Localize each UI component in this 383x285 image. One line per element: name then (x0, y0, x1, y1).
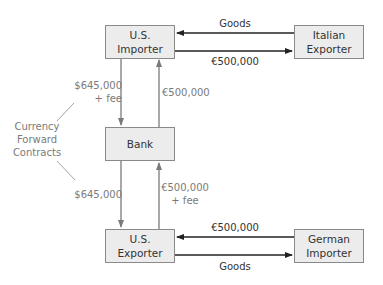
node-italian-exporter: Italian Exporter (294, 25, 364, 59)
callout-line-top (57, 103, 74, 121)
annotation-currency-forward-contracts: Currency Forward Contracts (4, 120, 70, 159)
label-bank-to-exporter: $645,000 (64, 188, 122, 201)
label-importer-to-bank: $645,000 + fee (64, 79, 122, 105)
label-bottom-payment: €500,000 (200, 221, 270, 234)
callout-line-bottom (57, 161, 75, 180)
label-exporter-to-bank: €500,000 + fee (160, 181, 210, 207)
label-top-goods: Goods (205, 17, 265, 30)
label-bank-to-importer: €500,000 (162, 86, 222, 99)
node-us-exporter: U.S. Exporter (105, 229, 175, 263)
label-top-payment: €500,000 (200, 55, 270, 68)
node-german-importer: German Importer (294, 229, 364, 263)
node-us-importer: U.S. Importer (105, 25, 175, 59)
label-bottom-goods: Goods (205, 260, 265, 273)
node-bank: Bank (105, 127, 175, 161)
